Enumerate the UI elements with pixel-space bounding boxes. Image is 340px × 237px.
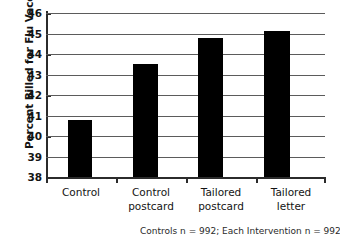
gridline bbox=[46, 13, 325, 14]
y-tick-label: 40 bbox=[22, 130, 42, 142]
chart-footnote: Controls n = 992; Each Intervention n = … bbox=[140, 226, 340, 237]
bar-control bbox=[68, 120, 92, 177]
y-axis-tick-labels: 46 45 44 43 42 41 40 39 38 bbox=[18, 0, 42, 235]
x-tick-mark bbox=[46, 177, 48, 183]
bar-tailored-postcard bbox=[198, 38, 223, 177]
x-tick-label-tailored-postcard: Tailored postcard bbox=[186, 186, 256, 220]
x-tick-label-control-postcard: Control postcard bbox=[116, 186, 186, 220]
x-label-line2: letter bbox=[256, 200, 326, 214]
x-axis-tick-labels: Control Control postcard Tailored postca… bbox=[46, 186, 326, 220]
y-tick-label: 45 bbox=[22, 28, 42, 40]
x-tick-mark bbox=[324, 177, 326, 183]
y-tick-label: 41 bbox=[22, 110, 42, 122]
x-label-line2: postcard bbox=[186, 200, 256, 214]
y-tick-label: 39 bbox=[22, 151, 42, 163]
y-tick-label: 38 bbox=[22, 171, 42, 183]
y-tick-label: 44 bbox=[22, 48, 42, 60]
x-label-line1: Tailored bbox=[186, 186, 256, 200]
x-label-line2: postcard bbox=[116, 200, 186, 214]
y-tick-label: 42 bbox=[22, 89, 42, 101]
bar-control-postcard bbox=[133, 64, 158, 177]
x-tick-mark bbox=[256, 177, 258, 183]
x-tick-mark bbox=[116, 177, 118, 183]
bar-tailored-letter bbox=[264, 31, 290, 177]
x-tick-label-tailored-letter: Tailored letter bbox=[256, 186, 326, 220]
x-label-line1: Control bbox=[116, 186, 186, 200]
x-label-line1: Tailored bbox=[256, 186, 326, 200]
y-tick-label: 43 bbox=[22, 69, 42, 81]
y-tick-label: 46 bbox=[22, 7, 42, 19]
x-tick-label-control: Control bbox=[46, 186, 116, 220]
x-tick-mark bbox=[186, 177, 188, 183]
x-label-line1: Control bbox=[46, 186, 116, 200]
plot-area bbox=[46, 13, 325, 177]
